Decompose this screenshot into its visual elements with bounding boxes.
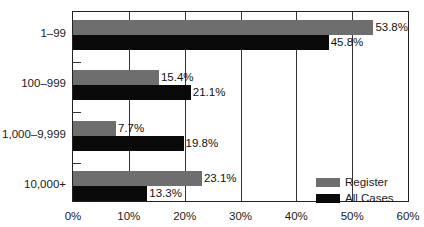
y-tick xyxy=(72,112,81,113)
bar-all-cases xyxy=(73,85,191,100)
value-label: 13.3% xyxy=(149,186,182,201)
category-label: 1–99 xyxy=(40,27,66,39)
legend-swatch xyxy=(316,194,340,203)
x-tick-label: 60% xyxy=(396,210,419,222)
value-label: 45.8% xyxy=(331,35,364,50)
legend: RegisterAll Cases xyxy=(316,174,394,206)
value-label: 15.4% xyxy=(161,70,194,85)
bar-all-cases xyxy=(73,136,184,151)
x-tick-label: 50% xyxy=(341,210,364,222)
legend-item: All Cases xyxy=(316,190,394,206)
x-tick-label: 30% xyxy=(229,210,252,222)
x-tick-label: 40% xyxy=(285,210,308,222)
bar-all-cases xyxy=(73,186,147,201)
x-tick-label: 10% xyxy=(117,210,140,222)
bar-chart: 53.8%45.8%15.4%21.1%7.7%19.8%23.1%13.3% … xyxy=(0,0,424,227)
legend-label: Register xyxy=(345,176,388,188)
value-label: 21.1% xyxy=(193,85,226,100)
bar-register xyxy=(73,121,116,136)
value-label: 19.8% xyxy=(186,136,219,151)
category-label: 100–999 xyxy=(21,77,66,89)
x-tick-label: 20% xyxy=(173,210,196,222)
value-label: 53.8% xyxy=(375,20,408,35)
y-tick xyxy=(72,163,81,164)
category-label: 1,000–9,999 xyxy=(2,128,66,140)
x-tick-label: 0% xyxy=(65,210,82,222)
bar-register xyxy=(73,70,159,85)
legend-swatch xyxy=(316,178,340,187)
legend-item: Register xyxy=(316,174,394,190)
category-label: 10,000+ xyxy=(24,178,66,190)
bar-register xyxy=(73,171,202,186)
legend-label: All Cases xyxy=(345,192,394,204)
value-label: 23.1% xyxy=(204,171,237,186)
y-tick xyxy=(72,62,81,63)
bar-register xyxy=(73,20,373,35)
value-label: 7.7% xyxy=(118,121,144,136)
bar-all-cases xyxy=(73,35,329,50)
